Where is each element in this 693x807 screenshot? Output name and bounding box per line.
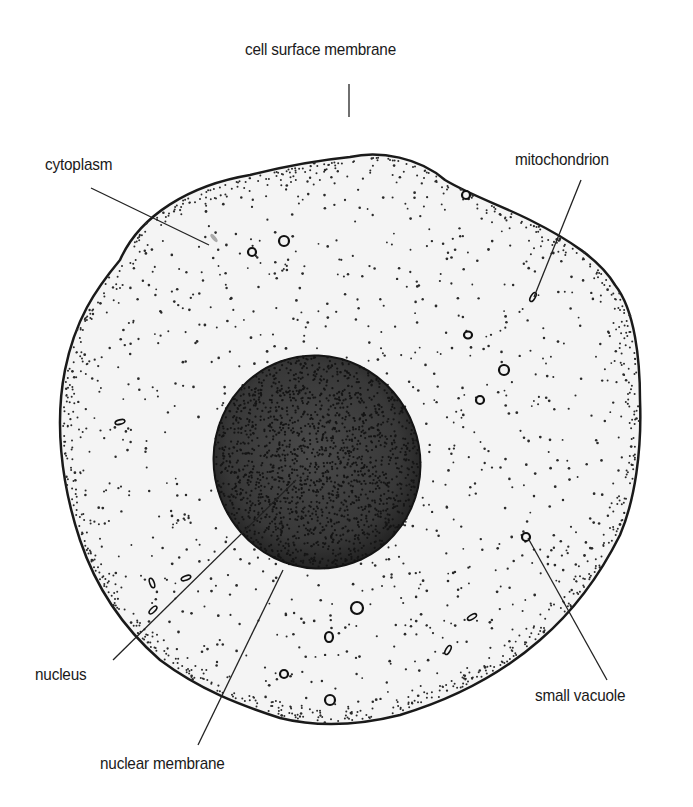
label-cytoplasm: cytoplasm: [45, 155, 112, 175]
label-nuclear-membrane: nuclear membrane: [100, 754, 225, 774]
label-cell-surface-membrane: cell surface membrane: [245, 40, 396, 60]
label-nucleus: nucleus: [35, 665, 86, 685]
label-mitochondrion: mitochondrion: [515, 150, 609, 170]
cell-diagram: cell surface membrane cytoplasm mitochon…: [0, 0, 693, 807]
label-small-vacuole: small vacuole: [535, 686, 625, 706]
